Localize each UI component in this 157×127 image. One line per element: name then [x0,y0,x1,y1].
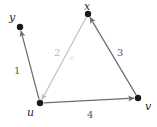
edge-layer [21,17,136,103]
graph-edge-v-to-x [90,18,136,95]
node-label-y: y [9,12,15,23]
graph-edge-u-to-y [21,31,39,99]
edge-weight-label-2: 2 [54,48,60,58]
node-label-u: u [27,107,34,118]
node-layer [17,11,141,106]
graph-node-v [135,95,141,101]
node-label-v: v [145,101,151,112]
edge-weight-label-3: 3 [117,48,123,58]
graph-edge-x-to-u [42,17,86,99]
graph-figure: yxuv12e34 [0,0,157,127]
graph-node-u [37,100,43,106]
edge-weight-label-4: 4 [87,110,93,120]
edge-annotation-label-e: e [70,55,74,62]
graph-edge-u-to-v [44,98,134,103]
graph-node-y [17,24,23,30]
edge-weight-label-1: 1 [14,66,20,76]
graph-canvas [0,0,157,127]
node-label-x: x [84,1,90,12]
